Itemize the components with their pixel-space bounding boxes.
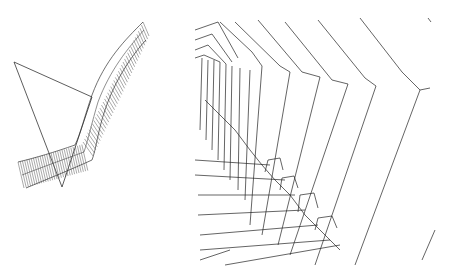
- tunnel-wireframe-panel: [190, 0, 449, 277]
- tunnel-wireframe-drawing: [190, 0, 449, 277]
- tube-wireframe-drawing: [0, 0, 190, 277]
- tube-wireframe-panel: [0, 0, 190, 277]
